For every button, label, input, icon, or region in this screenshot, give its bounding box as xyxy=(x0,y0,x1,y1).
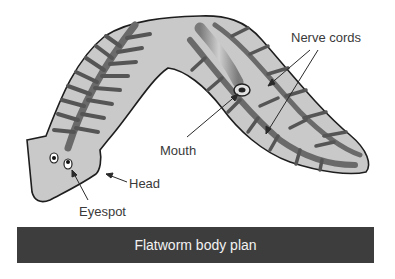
label-head: Head xyxy=(129,176,160,191)
label-eyespot: Eyespot xyxy=(79,204,126,219)
label-nerve-cords: Nerve cords xyxy=(291,30,361,45)
caption-bar: Flatworm body plan xyxy=(17,227,374,263)
label-mouth: Mouth xyxy=(160,143,196,158)
caption-text: Flatworm body plan xyxy=(134,237,256,253)
